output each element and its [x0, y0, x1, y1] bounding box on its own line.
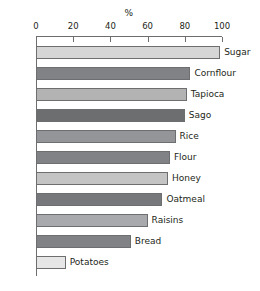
x-tick-mark [185, 37, 186, 42]
bar [36, 193, 162, 206]
x-tick-label: 60 [142, 21, 153, 31]
bar-category-label: Tapioca [187, 88, 225, 101]
bar-row: Oatmeal [36, 193, 260, 206]
bar-row: Sugar [36, 46, 260, 59]
bar-category-label: Honey [168, 172, 201, 185]
bar-category-label: Potatoes [66, 256, 109, 269]
bar [36, 67, 190, 80]
bar [36, 130, 176, 143]
bar [36, 235, 131, 248]
x-tick-mark [73, 37, 74, 42]
x-tick-label: 0 [33, 21, 38, 31]
x-axis-tick-labels: 020406080100 [0, 21, 260, 33]
x-tick-label: 40 [105, 21, 116, 31]
bar-category-label: Cornflour [190, 67, 236, 80]
bar-row: Honey [36, 172, 260, 185]
axis-title-label: % [36, 8, 222, 18]
x-tick-mark [110, 37, 111, 42]
bar-row: Rice [36, 130, 260, 143]
bar [36, 109, 185, 122]
bar [36, 214, 148, 227]
bar-category-label: Oatmeal [162, 193, 204, 206]
bar-row: Potatoes [36, 256, 260, 269]
bar-row: Cornflour [36, 67, 260, 80]
bar-chart: % 020406080100 SugarCornflourTapiocaSago… [0, 0, 260, 291]
bar-category-label: Sago [185, 109, 211, 122]
bar-category-label: Rice [176, 130, 199, 143]
bar-category-label: Flour [170, 151, 197, 164]
x-tick-mark [148, 37, 149, 42]
x-tick-label: 80 [179, 21, 190, 31]
x-tick-mark [222, 37, 223, 42]
bar-category-label: Bread [131, 235, 161, 248]
bar [36, 172, 168, 185]
x-axis-tick-marks [36, 37, 222, 43]
bar [36, 88, 187, 101]
bar [36, 151, 170, 164]
x-tick-label: 100 [214, 21, 230, 31]
bar [36, 46, 220, 59]
plot-area: SugarCornflourTapiocaSagoRiceFlourHoneyO… [36, 46, 260, 281]
bar-row: Raisins [36, 214, 260, 227]
bar-category-label: Raisins [148, 214, 184, 227]
bar [36, 256, 66, 269]
bar-row: Tapioca [36, 88, 260, 101]
bar-row: Sago [36, 109, 260, 122]
bar-row: Flour [36, 151, 260, 164]
bar-category-label: Sugar [220, 46, 250, 59]
x-tick-label: 20 [68, 21, 79, 31]
bar-row: Bread [36, 235, 260, 248]
